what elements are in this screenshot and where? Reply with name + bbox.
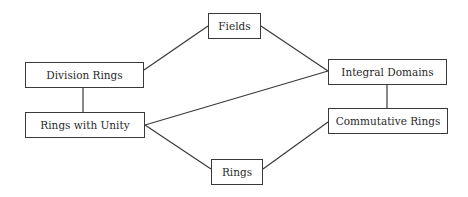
node-label: Commutative Rings: [336, 115, 441, 127]
ring-hierarchy-diagram: FieldsDivision RingsIntegral DomainsRing…: [0, 0, 468, 197]
node-rings-with-unity: Rings with Unity: [25, 112, 145, 138]
node-label: Rings: [222, 166, 252, 178]
node-label: Rings with Unity: [40, 119, 129, 131]
node-commutative-rings: Commutative Rings: [328, 108, 448, 134]
node-integral-domains: Integral Domains: [328, 59, 447, 85]
edge-rings-to-commutative-rings: [263, 122, 328, 169]
edge-fields-to-integral-domains: [261, 26, 328, 71]
edge-division-rings-to-fields: [144, 26, 208, 70]
edge-rings-with-unity-to-integral-domains: [145, 71, 328, 125]
node-label: Integral Domains: [341, 66, 434, 78]
node-rings: Rings: [211, 159, 263, 185]
node-division-rings: Division Rings: [25, 62, 144, 88]
node-label: Division Rings: [46, 69, 122, 81]
edge-rings-to-rings-with-unity: [145, 125, 211, 169]
node-label: Fields: [218, 20, 250, 32]
node-fields: Fields: [208, 13, 261, 39]
